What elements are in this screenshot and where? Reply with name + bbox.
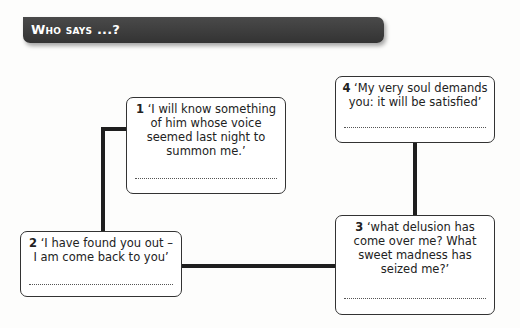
quote-number: 4 (342, 81, 350, 95)
quote-text: ‘what delusion has come over me? What sw… (354, 220, 477, 276)
quote-number: 3 (355, 220, 363, 234)
quote-box-1: 1 ‘I will know something of him whose vo… (126, 97, 286, 194)
quote-text: ‘I have found you out – I am come back t… (33, 236, 173, 264)
header-title: Who says ...? (31, 22, 120, 37)
connector-3-4 (413, 143, 417, 216)
answer-line[interactable] (29, 284, 173, 285)
answer-line[interactable] (344, 298, 486, 299)
connector-1-2-horizontal (101, 127, 127, 131)
quote-box-2: 2 ‘I have found you out – I am come back… (20, 231, 182, 297)
answer-line[interactable] (135, 178, 277, 179)
connector-1-2-vertical (101, 127, 105, 232)
answer-line[interactable] (344, 127, 486, 128)
quote-number: 1 (136, 102, 144, 116)
connector-2-3 (182, 264, 336, 268)
section-header: Who says ...? (23, 17, 384, 43)
quote-number: 2 (29, 236, 37, 250)
quote-text: ‘My very soul demands you: it will be sa… (349, 81, 488, 109)
quote-text: ‘I will know something of him whose voic… (147, 102, 276, 158)
quote-box-4: 4 ‘My very soul demands you: it will be … (335, 76, 495, 143)
quote-box-3: 3 ‘what delusion has come over me? What … (335, 215, 495, 315)
